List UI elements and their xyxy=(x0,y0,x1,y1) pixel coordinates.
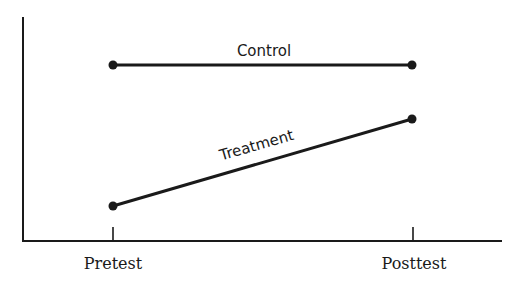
chart: Pretest Posttest Control Treatment xyxy=(0,0,519,293)
series-line-treatment xyxy=(113,119,412,206)
data-point-treatment-pretest xyxy=(109,202,118,211)
data-point-treatment-posttest xyxy=(408,115,417,124)
data-point-control-posttest xyxy=(408,61,417,70)
x-tick-label-posttest: Posttest xyxy=(382,254,448,273)
series-label-control: Control xyxy=(237,42,291,60)
data-point-control-pretest xyxy=(109,61,118,70)
series-label-treatment: Treatment xyxy=(216,126,295,165)
x-tick-label-pretest: Pretest xyxy=(84,254,143,273)
